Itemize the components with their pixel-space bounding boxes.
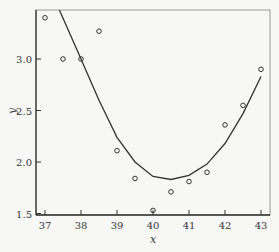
data-point (133, 176, 138, 181)
data-points (43, 15, 264, 212)
data-point (115, 148, 120, 153)
data-point (169, 190, 174, 195)
y-axis-label: y (6, 107, 19, 115)
data-point (97, 29, 102, 34)
x-tick-label: 42 (219, 220, 232, 231)
data-point (241, 103, 246, 108)
y-tick-label: 3.0 (16, 54, 32, 65)
data-point (43, 15, 48, 20)
x-tick-label: 43 (255, 220, 268, 231)
x-axis-label: x (150, 233, 157, 246)
data-point (259, 67, 264, 72)
data-point (205, 170, 210, 175)
y-tick-label: 1.5 (16, 209, 32, 220)
x-tick-label: 40 (147, 220, 160, 231)
fitted-curve (59, 10, 261, 180)
y-axis-ticks: 1.52.02.53.0 (16, 54, 41, 220)
data-point (187, 179, 192, 184)
plot-frame (36, 10, 270, 215)
scatter-chart: 37383940414243 1.52.02.53.0 x y (0, 0, 279, 252)
data-point (223, 123, 228, 128)
x-tick-label: 37 (39, 220, 52, 231)
x-tick-label: 41 (183, 220, 196, 231)
x-tick-label: 39 (111, 220, 124, 231)
data-point (61, 57, 66, 62)
y-tick-label: 2.0 (16, 157, 32, 168)
x-tick-label: 38 (75, 220, 88, 231)
